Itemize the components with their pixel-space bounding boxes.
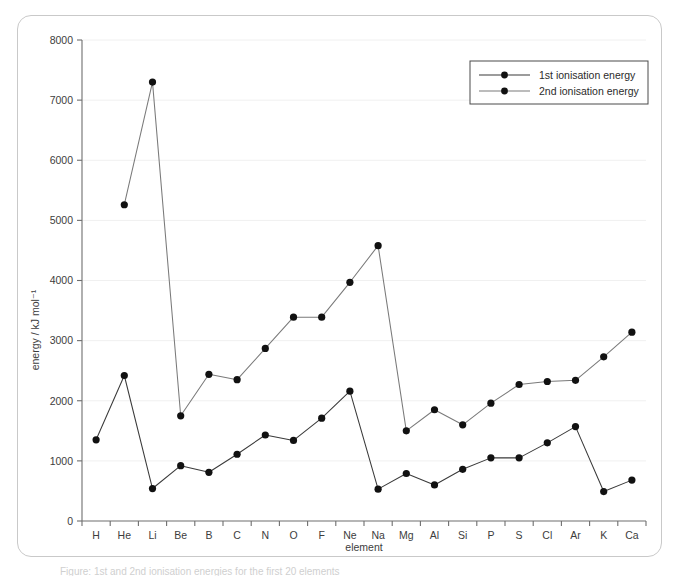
y-tick-label: 3000: [50, 334, 74, 346]
y-axis-title: energy / kJ mol⁻¹: [29, 289, 41, 370]
x-tick-label-f: F: [318, 529, 324, 541]
series-1st-ionisation-energy-point-ar: [572, 423, 579, 430]
series-1st-ionisation-energy-point-k: [600, 488, 607, 495]
series-1st-ionisation-energy-point-ca: [628, 477, 635, 484]
series-2nd-ionisation-energy-point-he: [121, 201, 128, 208]
x-axis-tick-labels: HHeLiBeBCNOFNeNaMgAlSiPSClArKCa: [92, 529, 638, 541]
y-tick-label: 6000: [50, 154, 74, 166]
series-2nd-ionisation-energy-point-s: [516, 381, 523, 388]
x-tick-label-b: B: [205, 529, 212, 541]
x-tick-label-al: Al: [430, 529, 439, 541]
x-tick-label-ar: Ar: [570, 529, 581, 541]
x-tick-label-k: K: [600, 529, 607, 541]
x-tick-label-si: Si: [458, 529, 467, 541]
y-tick-label: 1000: [50, 455, 74, 467]
figure-caption: Figure: 1st and 2nd ionisation energies …: [60, 566, 660, 576]
series-2nd-ionisation-energy-point-al: [431, 406, 438, 413]
x-tick-label-c: C: [233, 529, 241, 541]
series-1st-ionisation-energy-point-he: [121, 372, 128, 379]
series-1st-ionisation-energy-point-ne: [346, 388, 353, 395]
series-1st-ionisation-energy-point-li: [149, 485, 156, 492]
series-2nd-ionisation-energy-point-be: [177, 412, 184, 419]
series-2nd-ionisation-energy-point-ar: [572, 377, 579, 384]
x-axis-title: element: [345, 541, 382, 553]
series-1st-ionisation-energy-point-s: [516, 454, 523, 461]
legend-marker-series2: [501, 88, 508, 95]
y-tick-label: 7000: [50, 94, 74, 106]
legend-label-series1: 1st ionisation energy: [539, 69, 636, 81]
x-tick-label-na: Na: [371, 529, 385, 541]
y-tick-label: 0: [67, 515, 73, 527]
y-tick-label: 5000: [50, 214, 74, 226]
x-tick-label-mg: Mg: [399, 529, 414, 541]
series-1st-ionisation-energy-point-mg: [403, 470, 410, 477]
y-axis-tick-labels: 010002000300040005000600070008000: [50, 34, 74, 527]
series-2nd-ionisation-energy-point-ne: [346, 279, 353, 286]
x-tick-label-be: Be: [174, 529, 187, 541]
series-1st-ionisation-energy-point-o: [290, 437, 297, 444]
series-2nd-ionisation-energy-point-k: [600, 353, 607, 360]
series-2nd-ionisation-energy-point-cl: [544, 378, 551, 385]
x-tick-label-ca: Ca: [625, 529, 639, 541]
series-1st-ionisation-energy-point-be: [177, 462, 184, 469]
x-tick-label-s: S: [516, 529, 523, 541]
x-tick-label-he: He: [118, 529, 132, 541]
series-2nd-ionisation-energy-line: [124, 82, 632, 431]
series-1st-ionisation-energy-point-si: [459, 466, 466, 473]
series-2nd-ionisation-energy-point-o: [290, 314, 297, 321]
series-2nd-ionisation-energy-point-na: [375, 242, 382, 249]
x-tick-label-li: Li: [148, 529, 156, 541]
series-1st-ionisation-energy-point-c: [234, 451, 241, 458]
series-1st-ionisation-energy-point-n: [262, 431, 269, 438]
series-2nd-ionisation-energy-point-ca: [628, 329, 635, 336]
series-2nd-ionisation-energy-point-si: [459, 421, 466, 428]
series-1st-ionisation-energy-point-al: [431, 481, 438, 488]
y-tick-label: 4000: [50, 274, 74, 286]
y-tick-label: 2000: [50, 395, 74, 407]
series-1st-ionisation-energy-point-p: [487, 454, 494, 461]
series-1st-ionisation-energy-point-h: [93, 436, 100, 443]
legend-label-series2: 2nd ionisation energy: [539, 85, 640, 97]
x-tick-label-ne: Ne: [343, 529, 357, 541]
chart-legend: 1st ionisation energy 2nd ionisation ene…: [470, 61, 648, 104]
x-tick-label-o: O: [289, 529, 297, 541]
series-2nd-ionisation-energy-point-p: [487, 400, 494, 407]
series-2nd-ionisation-energy-point-li: [149, 78, 156, 85]
x-tick-label-cl: Cl: [542, 529, 552, 541]
series-2nd-ionisation-energy-point-b: [205, 371, 212, 378]
series-2nd-ionisation-energy-point-c: [234, 376, 241, 383]
legend-box: [470, 61, 648, 104]
x-axis-ticks: [82, 521, 646, 526]
series-1st-ionisation-energy-point-cl: [544, 439, 551, 446]
series-1st-ionisation-energy-point-b: [205, 469, 212, 476]
series-1st-ionisation-energy-line: [96, 376, 632, 492]
series-2nd-ionisation-energy-point-mg: [403, 427, 410, 434]
x-tick-label-n: N: [262, 529, 270, 541]
series-1st-ionisation-energy-point-na: [375, 486, 382, 493]
series-2nd-ionisation-energy-point-f: [318, 314, 325, 321]
series-2nd-ionisation-energy-point-n: [262, 345, 269, 352]
y-tick-label: 8000: [50, 34, 74, 46]
data-series: [93, 78, 636, 495]
legend-marker-series1: [501, 72, 508, 79]
x-tick-label-p: P: [487, 529, 494, 541]
y-axis-ticks: [77, 40, 82, 521]
ionisation-energy-chart: 010002000300040005000600070008000 HHeLiB…: [0, 0, 694, 576]
x-tick-label-h: H: [92, 529, 100, 541]
series-1st-ionisation-energy-point-f: [318, 415, 325, 422]
